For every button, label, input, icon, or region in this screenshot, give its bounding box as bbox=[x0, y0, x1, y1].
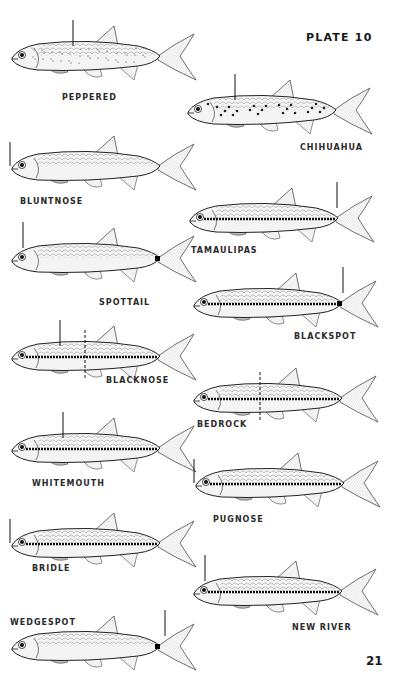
fish-species-label: PEPPERED bbox=[62, 93, 117, 102]
fish-new-river: NEW RIVER bbox=[190, 553, 390, 633]
page-number: 21 bbox=[366, 654, 383, 668]
fish-blackspot: BLACKSPOT bbox=[190, 265, 390, 345]
fish-species-label: SPOTTAIL bbox=[99, 298, 150, 307]
fish-species-label: BRIDLE bbox=[32, 564, 70, 573]
fish-icon bbox=[184, 72, 384, 152]
fish-bedrock: BEDROCK bbox=[190, 360, 390, 440]
fish-chihuahua: CHIHUAHUA bbox=[184, 72, 384, 152]
fish-icon bbox=[190, 553, 390, 633]
fish-icon bbox=[192, 445, 392, 525]
fish-species-label: NEW RIVER bbox=[292, 623, 352, 632]
fish-icon bbox=[8, 505, 208, 585]
fish-species-label: BLACKSPOT bbox=[294, 332, 356, 341]
fish-species-label: CHIHUAHUA bbox=[300, 143, 363, 152]
fish-bluntnose: BLUNTNOSE bbox=[8, 128, 208, 208]
fish-tamaulipas: TAMAULIPAS bbox=[186, 180, 386, 260]
fish-pugnose: PUGNOSE bbox=[192, 445, 392, 525]
fish-peppered: PEPPERED bbox=[8, 18, 208, 98]
fish-species-label: BLUNTNOSE bbox=[20, 197, 83, 206]
fish-icon bbox=[190, 265, 390, 345]
fish-species-label: PUGNOSE bbox=[213, 515, 264, 524]
fish-whitemouth: WHITEMOUTH bbox=[8, 410, 208, 490]
fish-bridle: BRIDLE bbox=[8, 505, 208, 585]
fish-species-label: WEDGESPOT bbox=[10, 618, 76, 627]
fish-icon bbox=[8, 318, 208, 398]
fish-spottail: SPOTTAIL bbox=[8, 220, 208, 300]
fish-wedgespot: WEDGESPOT bbox=[8, 608, 208, 688]
fish-icon bbox=[8, 18, 208, 98]
fish-icon bbox=[8, 128, 208, 208]
plate-title: PLATE 10 bbox=[306, 31, 373, 44]
fish-species-label: BLACKNOSE bbox=[106, 376, 169, 385]
fish-icon bbox=[8, 410, 208, 490]
fish-species-label: WHITEMOUTH bbox=[32, 479, 105, 488]
fish-blacknose: BLACKNOSE bbox=[8, 318, 208, 398]
fish-icon bbox=[8, 220, 208, 300]
